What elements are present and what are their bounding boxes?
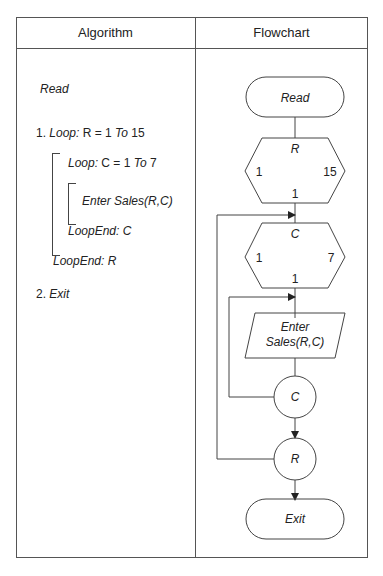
fc-loop-c-step: 1	[288, 272, 302, 286]
fc-loop-r-var: R	[285, 142, 305, 156]
fc-enter-line1: Enter	[250, 320, 340, 334]
fc-loop-r-step: 1	[288, 187, 302, 201]
fc-loop-r-end: 15	[320, 165, 340, 179]
fc-connector-c-label: C	[285, 390, 305, 404]
fc-loop-c-start: 1	[252, 251, 266, 265]
fc-loop-c-end: 7	[324, 251, 338, 265]
flowchart-svg	[0, 0, 383, 576]
fc-loop-r-start: 1	[252, 165, 266, 179]
fc-exit-label: Exit	[246, 512, 344, 526]
fc-read-label: Read	[246, 91, 344, 105]
fc-enter-line2: Sales(R,C)	[250, 335, 340, 349]
fc-loop-c-var: C	[285, 227, 305, 241]
fc-connector-r-label: R	[285, 452, 305, 466]
